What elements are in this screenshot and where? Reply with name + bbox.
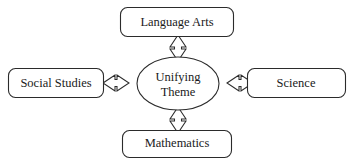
node-language-arts[interactable]: Language Arts [121, 8, 234, 37]
connector-bottom [170, 107, 186, 133]
node-language-arts-label: Language Arts [140, 15, 213, 29]
node-science-label: Science [277, 76, 316, 90]
node-mathematics-label: Mathematics [145, 136, 210, 150]
node-mathematics[interactable]: Mathematics [123, 131, 232, 158]
connector-left [103, 75, 129, 91]
node-social-studies-label: Social Studies [20, 76, 91, 90]
node-science[interactable]: Science [248, 69, 346, 98]
node-unifying-theme-label-line1: Unifying [155, 70, 201, 84]
diagram-canvas: Language Arts Social Studies Science Mat… [0, 0, 354, 164]
node-social-studies[interactable]: Social Studies [9, 69, 104, 98]
node-unifying-theme-label-line2: Theme [161, 85, 196, 99]
curriculum-integration-diagram: Language Arts Social Studies Science Mat… [0, 0, 354, 164]
node-unifying-theme[interactable]: Unifying Theme [137, 57, 219, 110]
